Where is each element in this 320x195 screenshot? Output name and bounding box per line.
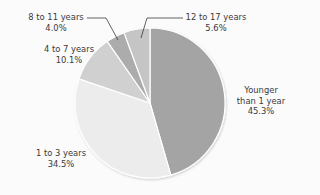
label-8-to-11-years-name: 8 to 11 years bbox=[27, 12, 85, 23]
label-younger-pct: 45.3% bbox=[233, 106, 289, 117]
label-4-to-7-years-pct: 10.1% bbox=[40, 55, 98, 66]
label-8-to-11-years: 8 to 11 years 4.0% bbox=[27, 12, 85, 33]
label-younger-line1: Younger bbox=[233, 85, 289, 96]
label-1-to-3-years: 1 to 3 years 34.5% bbox=[32, 148, 90, 169]
label-1-to-3-years-pct: 34.5% bbox=[32, 159, 90, 170]
label-8-to-11-years-pct: 4.0% bbox=[27, 23, 85, 34]
label-12-to-17-years-pct: 5.6% bbox=[185, 23, 247, 34]
label-12-to-17-years: 12 to 17 years 5.6% bbox=[185, 12, 247, 33]
label-12-to-17-years-name: 12 to 17 years bbox=[185, 12, 247, 23]
label-1-to-3-years-name: 1 to 3 years bbox=[32, 148, 90, 159]
label-younger-than-1-year: Younger than 1 year 45.3% bbox=[233, 85, 289, 117]
label-4-to-7-years: 4 to 7 years 10.1% bbox=[40, 44, 98, 65]
leader-line-8-to-11 bbox=[87, 18, 118, 40]
label-younger-line2: than 1 year bbox=[233, 96, 289, 107]
label-4-to-7-years-name: 4 to 7 years bbox=[40, 44, 98, 55]
